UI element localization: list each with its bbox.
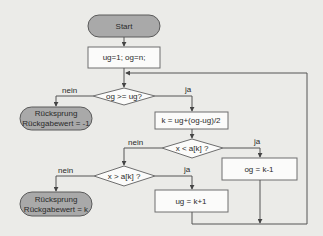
init-process: ug=1; og=n; [88, 47, 160, 68]
loop-condition-label: og >= ug? [106, 92, 143, 101]
flowchart: Start ug=1; og=n; og >= ug? nein ja Rück… [0, 0, 323, 236]
set-og-label: og = k-1 [244, 165, 274, 174]
calc-k-process: k = ug+(og-ug)/2 [155, 112, 228, 129]
set-ug-process: ug = k+1 [155, 190, 228, 212]
set-ug-label: ug = k+1 [175, 197, 207, 206]
return-found-line2: Rückgabewert = k [24, 205, 89, 214]
edge-less-yes [223, 148, 260, 157]
set-og-process: og = k-1 [222, 158, 297, 180]
edge-label-less-no: nein [128, 138, 143, 147]
greater-condition-label: x > a[k] ? [108, 172, 141, 181]
return-found-terminal: Rücksprung Rückgabewert = k [20, 192, 92, 216]
calc-k-label: k = ug+(og-ug)/2 [161, 116, 221, 125]
return-fail-line2: Rückgabewert = -1 [22, 119, 90, 128]
return-found-line1: Rücksprung [35, 195, 78, 204]
return-fail-terminal: Rücksprung Rückgabewert = -1 [20, 107, 92, 130]
edge-ug-merge [192, 212, 307, 224]
edge-label-loop-yes: ja [184, 85, 192, 94]
edge-greater-yes [155, 176, 192, 189]
less-condition-label: x < a[k] ? [176, 144, 209, 153]
edge-label-greater-yes: ja [183, 165, 191, 174]
edge-loop-yes [155, 96, 192, 111]
greater-condition-decision: x > a[k] ? [94, 166, 155, 186]
start-terminal: Start [88, 15, 160, 37]
edge-label-loop-no: nein [62, 86, 77, 95]
init-label: ug=1; og=n; [103, 53, 146, 62]
less-condition-decision: x < a[k] ? [162, 139, 223, 158]
edge-label-greater-no: nein [58, 166, 73, 175]
start-label: Start [116, 22, 134, 31]
edge-loop-no [56, 96, 93, 106]
edge-label-less-yes: ja [253, 137, 261, 146]
edge-less-no [124, 148, 162, 165]
loop-condition-decision: og >= ug? [93, 88, 155, 105]
return-fail-line1: Rücksprung [35, 109, 78, 118]
edge-greater-no [56, 176, 94, 191]
